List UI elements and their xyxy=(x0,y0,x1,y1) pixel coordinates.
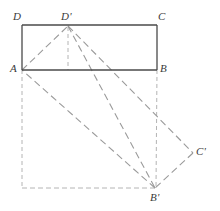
vertex-label-C: C xyxy=(158,11,166,22)
edge-dprime-bprime xyxy=(68,26,155,188)
vertex-label-B: B xyxy=(160,63,167,74)
edge-a-dprime xyxy=(22,26,68,70)
edge-bprime-a xyxy=(22,70,155,188)
geometry-figure: D D' C A B C' B' xyxy=(0,0,220,211)
edge-dprime-cprime xyxy=(68,26,193,153)
rotated-rectangle xyxy=(22,26,193,188)
vertex-label-Cprime: C' xyxy=(196,146,206,157)
vertex-label-Dprime: D' xyxy=(61,11,72,22)
vertex-label-D: D xyxy=(13,11,21,22)
vertex-label-A: A xyxy=(10,63,17,74)
figure-canvas xyxy=(0,0,220,211)
vertex-label-Bprime: B' xyxy=(150,192,159,203)
original-rectangle xyxy=(22,25,157,70)
guide-b-vertical xyxy=(156,70,157,188)
edge-cprime-bprime xyxy=(155,153,193,188)
